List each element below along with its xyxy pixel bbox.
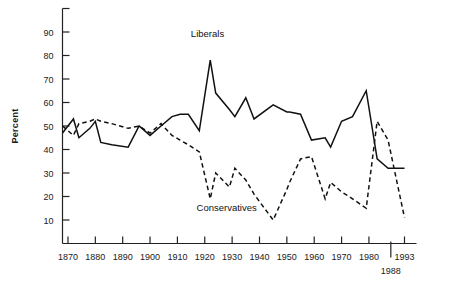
- line-chart: 1020304050607080901870188018901900191019…: [0, 0, 462, 288]
- x-tick-label: 1930: [222, 252, 242, 262]
- y-tick-label: 30: [43, 169, 53, 179]
- y-tick-label: 20: [43, 192, 53, 202]
- x-tick-label: 1880: [85, 252, 105, 262]
- x-tick-label: 1993: [394, 252, 414, 262]
- y-tick-label: 70: [43, 75, 53, 85]
- y-tick-label: 10: [43, 216, 53, 226]
- y-tick-label: 60: [43, 98, 53, 108]
- series-label-liberals: Liberals: [191, 28, 225, 39]
- x-tick-label: 1870: [58, 252, 78, 262]
- series-line-liberals: [63, 60, 405, 168]
- x-tick-label: 1890: [113, 252, 133, 262]
- x-tick-label: 1950: [277, 252, 297, 262]
- x-tick-label: 1900: [140, 252, 160, 262]
- y-tick-label: 40: [43, 145, 53, 155]
- x-tick-label-extra: 1988: [381, 266, 401, 276]
- x-tick-label: 1940: [249, 252, 269, 262]
- y-tick-label: 50: [43, 122, 53, 132]
- y-tick-label: 90: [43, 28, 53, 38]
- y-tick-label: 80: [43, 51, 53, 61]
- y-axis-title: Percent: [10, 108, 20, 143]
- chart-container: 1020304050607080901870188018901900191019…: [0, 0, 462, 288]
- x-tick-label: 1980: [359, 252, 379, 262]
- x-tick-label: 1970: [332, 252, 352, 262]
- series-label-conservatives: Conservatives: [197, 202, 257, 213]
- x-tick-label: 1910: [167, 252, 187, 262]
- x-tick-label: 1920: [195, 252, 215, 262]
- x-tick-label: 1960: [304, 252, 324, 262]
